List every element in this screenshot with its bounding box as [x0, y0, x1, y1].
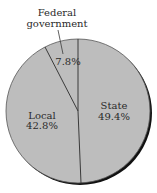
state-label: State	[101, 100, 128, 111]
local-pct: 42.8%	[26, 120, 58, 131]
pie-chart: Federal government 7.8% State 49.4% Loca…	[0, 0, 157, 193]
federal-label-line2: government	[26, 18, 87, 29]
federal-label-line1: Federal	[38, 7, 77, 18]
state-pct: 49.4%	[98, 111, 130, 122]
federal-pct: 7.8%	[55, 56, 80, 67]
